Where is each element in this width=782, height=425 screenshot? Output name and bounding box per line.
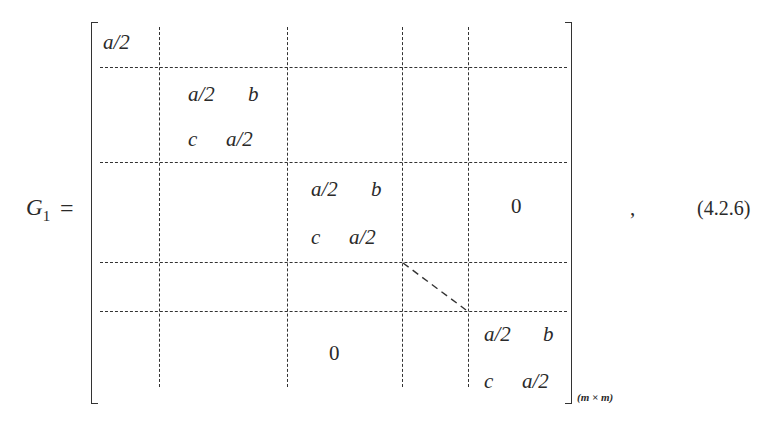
- block1-r2c2: a/2: [226, 129, 253, 150]
- block2-r1c1: a/2: [311, 179, 338, 200]
- entry-top-left: a/2: [103, 32, 130, 53]
- dimension-subscript: (m × m): [577, 391, 613, 403]
- block3-r2c2: a/2: [522, 371, 549, 392]
- diagonal-ellipsis-line: [0, 0, 782, 425]
- trailing-comma: ,: [630, 198, 635, 219]
- lower-zero-block: 0: [329, 343, 340, 364]
- block2-r2c1: c: [311, 227, 320, 248]
- upper-zero-block: 0: [511, 196, 522, 217]
- block1-r1c1: a/2: [188, 84, 215, 105]
- block1-r1c2: b: [248, 84, 259, 105]
- block2-r1c2: b: [371, 179, 382, 200]
- block3-r1c2: b: [543, 324, 554, 345]
- equation-number: (4.2.6): [697, 198, 750, 218]
- block2-r2c2: a/2: [349, 227, 376, 248]
- block3-r2c1: c: [484, 371, 493, 392]
- block3-r1c1: a/2: [484, 324, 511, 345]
- block1-r2c1: c: [188, 129, 197, 150]
